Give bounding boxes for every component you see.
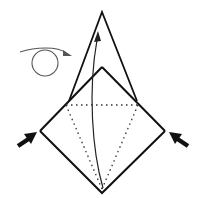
valley-fold-lines bbox=[66, 105, 138, 189]
origami-diagram: Origami folding step: turn over, then co… bbox=[0, 0, 200, 198]
turn-over-arrow bbox=[20, 48, 72, 76]
push-arrow-right bbox=[169, 132, 188, 146]
diagram-canvas bbox=[0, 0, 200, 198]
tall-triangle-flap bbox=[69, 12, 137, 101]
lift-arrow bbox=[92, 31, 103, 188]
push-arrow-left bbox=[18, 132, 37, 146]
square-base bbox=[40, 67, 165, 193]
